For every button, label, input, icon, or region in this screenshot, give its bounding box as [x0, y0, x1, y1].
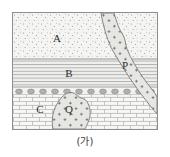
label-dike-p: P	[122, 59, 128, 71]
geologic-cross-section-svg: A B C P Q	[13, 13, 157, 129]
layer-a-fill	[13, 13, 157, 59]
geologic-cross-section-figure: A B C P Q	[12, 12, 158, 130]
label-layer-c: C	[36, 103, 43, 115]
pebble-band-unit	[13, 87, 157, 95]
figure-root: A B C P Q (가)	[0, 0, 170, 157]
figure-caption: (가)	[0, 133, 170, 148]
layer-a-unit	[13, 13, 157, 59]
label-pluton-q: Q	[65, 103, 73, 115]
label-layer-a: A	[53, 32, 61, 44]
label-layer-b: B	[65, 67, 72, 79]
